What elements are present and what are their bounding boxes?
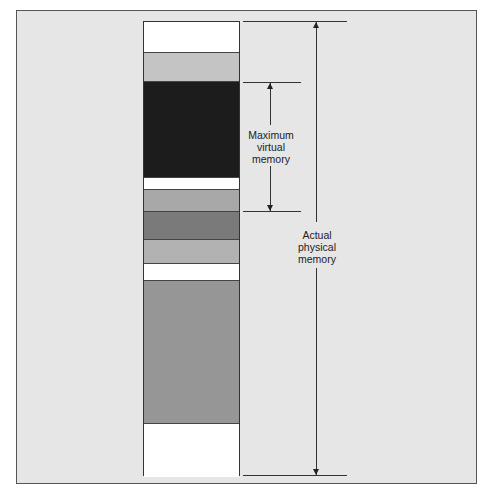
physical-label-line-1: Actual <box>286 229 348 241</box>
light-gray-region-2 <box>144 190 239 212</box>
virtual-bottom-extension-line <box>243 211 301 212</box>
physical-arrow-up-icon <box>313 22 319 28</box>
physical-top-extension-line <box>243 21 347 22</box>
virtual-arrow-down-icon <box>267 205 273 211</box>
physical-label-line-3: memory <box>286 253 348 265</box>
physical-dimension-line-lower <box>316 268 317 475</box>
virtual-memory-label: Maximum virtual memory <box>242 128 300 166</box>
light-gray-region-1 <box>144 53 239 82</box>
free-region-4 <box>144 424 239 477</box>
virtual-label-line-1: Maximum <box>242 129 300 141</box>
virtual-label-line-2: virtual <box>242 141 300 153</box>
memory-column <box>143 21 240 476</box>
physical-memory-label: Actual physical memory <box>286 228 348 266</box>
virtual-memory-region <box>144 82 239 178</box>
physical-label-line-2: physical <box>286 241 348 253</box>
free-region-3 <box>144 264 239 281</box>
free-region-2 <box>144 178 239 190</box>
physical-dimension-line-upper <box>316 22 317 222</box>
medium-gray-region <box>144 281 239 424</box>
virtual-dimension-line-upper <box>270 83 271 125</box>
virtual-label-line-3: memory <box>242 153 300 165</box>
physical-bottom-extension-line <box>243 475 347 476</box>
light-gray-region-3 <box>144 240 239 264</box>
virtual-arrow-up-icon <box>267 83 273 89</box>
free-region-1 <box>144 22 239 53</box>
physical-arrow-down-icon <box>313 469 319 475</box>
dark-gray-region <box>144 212 239 240</box>
